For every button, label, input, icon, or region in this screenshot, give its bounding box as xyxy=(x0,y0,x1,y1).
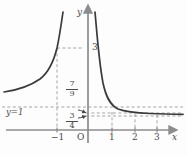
ytick-label-3: 3 xyxy=(92,43,98,52)
fraction-7-over-9: 7 9 xyxy=(66,80,78,98)
fraction-3-over-4-denominator: 4 xyxy=(66,122,78,130)
fraction-7-over-9-numerator: 7 xyxy=(66,80,78,88)
origin-label: O xyxy=(77,133,84,142)
asymptote-label: y=1 xyxy=(6,108,23,117)
curve-right-branch xyxy=(95,12,183,114)
axis-label-y: y xyxy=(77,8,82,17)
axes xyxy=(6,12,170,143)
arrow-to-7over9 xyxy=(78,110,86,113)
fraction-3-over-4-numerator: 3 xyxy=(66,112,78,120)
dashed-guides xyxy=(2,48,183,130)
xtick-label-1: 1 xyxy=(109,133,115,142)
fraction-pointers xyxy=(78,110,86,118)
axis-label-x: x xyxy=(172,133,177,142)
xtick-label-2: 2 xyxy=(132,133,138,142)
arrow-to-3over4 xyxy=(78,116,86,118)
fraction-3-over-4: 3 4 xyxy=(66,112,78,130)
xtick-label-3: 3 xyxy=(154,133,160,142)
fraction-7-over-9-denominator: 9 xyxy=(66,90,78,98)
curve-group xyxy=(4,12,183,114)
xtick-label-minus1: −1 xyxy=(51,133,64,142)
function-graph-figure: y x O −1 1 2 3 3 y=1 7 9 3 4 xyxy=(0,0,187,155)
curve-left-branch xyxy=(4,12,63,92)
